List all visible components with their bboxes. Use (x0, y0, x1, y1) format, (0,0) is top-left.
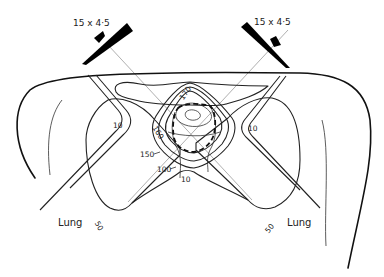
right-beam-arrow-icon (270, 36, 281, 47)
beam-axes (108, 30, 288, 202)
isodose-100-contour (153, 83, 235, 168)
right-lung-label: Lung (287, 217, 311, 228)
right-10-contour-outer (249, 76, 320, 208)
isodose-label-10-right: 10 (248, 124, 258, 133)
isodose-label-10-bottom: 10 (181, 175, 191, 184)
isodose-label-10-left: 10 (113, 121, 123, 130)
right-wedge: 15 x 4·5 (241, 17, 291, 68)
label-150-leader (154, 152, 160, 154)
left-wedge-filter-icon (82, 23, 133, 65)
inner-hotspot-contour (185, 110, 200, 120)
left-10-contour-outer (40, 75, 122, 210)
isodose-label-50-left: 50 (93, 220, 106, 233)
right-inner-outline (322, 120, 326, 246)
upper-wing-contour (115, 82, 268, 106)
inner-hotspot-contour-2 (168, 132, 220, 136)
isodose-label-100: 100 (157, 165, 172, 174)
left-field-size-label: 15 x 4·5 (73, 18, 110, 28)
right-field-size-label: 15 x 4·5 (254, 17, 291, 27)
isodose-diagram: 15 x 4·5 15 x 4·5 10 10 Lung 50 Lung 50 … (0, 0, 384, 277)
right-wedge-filter-icon (241, 22, 290, 68)
left-beam-arrow-icon (94, 31, 105, 43)
left-wedge: 15 x 4·5 (73, 18, 133, 65)
isodose-label-50-right: 50 (263, 222, 276, 235)
body-outline (17, 72, 371, 268)
left-lung-label: Lung (58, 217, 82, 228)
isodose-label-150: 150 (140, 150, 155, 159)
left-inner-outline (49, 100, 63, 175)
left-10-contour-inner (70, 75, 131, 188)
